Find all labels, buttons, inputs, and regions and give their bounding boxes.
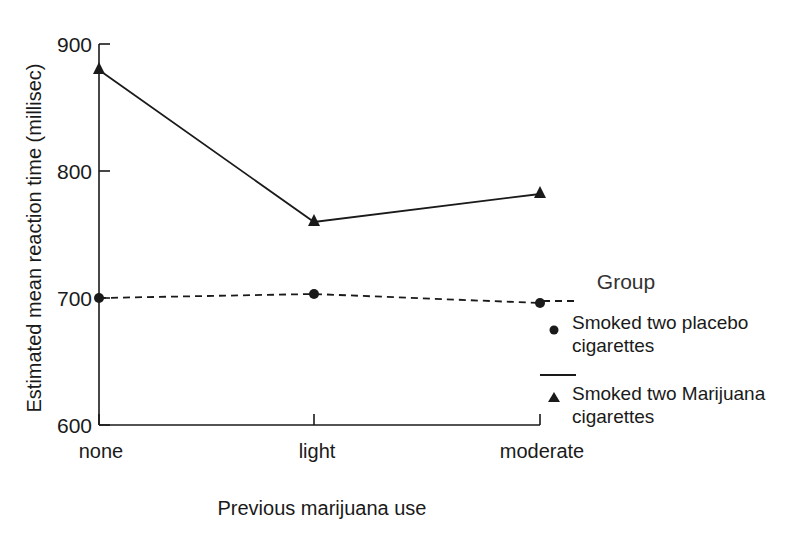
series-marijuana-line <box>99 70 540 222</box>
legend-title: Group <box>597 270 655 293</box>
x-axis-title: Previous marijuana use <box>218 497 427 519</box>
legend-entry-placebo[interactable]: Smoked two placebo cigarettes <box>543 301 748 356</box>
y-tick-label-700: 700 <box>57 287 92 310</box>
data-point-marijuana-none <box>93 62 105 74</box>
x-tick-label-light: light <box>299 440 336 462</box>
legend-label-marijuana-line2: cigarettes <box>572 406 654 427</box>
data-point-marijuana-moderate <box>534 186 546 198</box>
y-tick-label-600: 600 <box>57 414 92 437</box>
x-tick-label-moderate: moderate <box>500 440 585 462</box>
y-axis-title: Estimated mean reaction time (millisec) <box>23 64 45 413</box>
series-placebo-line <box>99 294 540 303</box>
legend-label-marijuana-line1: Smoked two Marijuana <box>572 383 766 404</box>
data-point-placebo-none <box>94 293 104 303</box>
data-point-placebo-light <box>309 289 319 299</box>
y-axis <box>99 44 110 425</box>
legend-marker-circle-icon <box>550 326 559 335</box>
data-point-placebo-moderate <box>535 298 545 308</box>
chart-canvas: 900 800 700 600 none light moderate Prev… <box>0 0 795 549</box>
legend-label-placebo-line2: cigarettes <box>572 335 654 356</box>
legend: Group Smoked two placebo cigarettes Smok… <box>540 270 766 427</box>
series-marijuana <box>93 62 546 226</box>
x-tick-label-none: none <box>79 440 124 462</box>
legend-marker-triangle-icon <box>548 392 560 402</box>
x-axis <box>99 414 540 425</box>
legend-entry-marijuana[interactable]: Smoked two Marijuana cigarettes <box>540 375 766 427</box>
y-tick-label-800: 800 <box>57 160 92 183</box>
series-placebo <box>94 289 545 308</box>
line-chart: 900 800 700 600 none light moderate Prev… <box>0 0 795 549</box>
legend-label-placebo-line1: Smoked two placebo <box>572 312 748 333</box>
y-tick-label-900: 900 <box>57 33 92 56</box>
